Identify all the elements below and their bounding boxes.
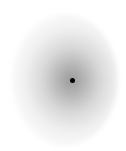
center-dot-icon: [70, 78, 75, 83]
radial-gradient-blob: [12, 14, 118, 146]
